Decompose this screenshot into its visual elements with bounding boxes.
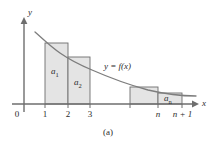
x-axis-label: x — [202, 99, 206, 108]
integral-test-figure: y x 0 1 2 3 n n + 1 a1 a2 an y = f(x) (a… — [0, 0, 216, 146]
area-rectangles — [45, 43, 182, 104]
origin-label: 0 — [12, 110, 22, 119]
y-axis — [21, 17, 28, 112]
y-axis-label: y — [28, 8, 32, 17]
area-label-a1: a1 — [51, 67, 59, 78]
x-tick-label-n: n — [153, 110, 163, 119]
x-tick-label-n-plus-1: n + 1 — [170, 110, 195, 119]
x-tick-label-3: 3 — [85, 110, 95, 119]
figure-canvas — [0, 0, 216, 146]
figure-caption: (a) — [0, 128, 216, 137]
x-tick-label-2: 2 — [63, 110, 73, 119]
area-label-a2: a2 — [74, 78, 82, 89]
function-label: y = f(x) — [104, 62, 131, 71]
x-axis-arrow-icon — [192, 101, 199, 108]
x-tick-label-1: 1 — [40, 110, 50, 119]
y-axis-arrow-icon — [21, 17, 28, 24]
area-label-an: an — [164, 94, 172, 105]
